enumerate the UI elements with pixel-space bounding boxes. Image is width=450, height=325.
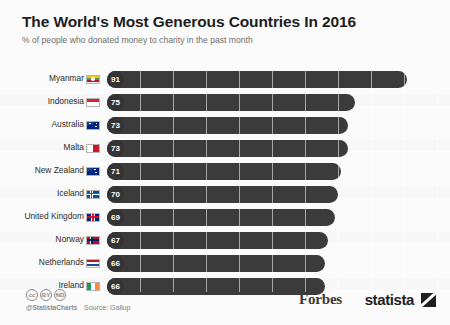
gridline: [140, 60, 141, 292]
statista-chart: The World's Most Generous Countries In 2…: [0, 0, 450, 325]
value-label: 75: [107, 94, 124, 111]
chart-header: The World's Most Generous Countries In 2…: [22, 12, 432, 46]
value-bar: [107, 117, 348, 134]
country-label: Indonesia: [0, 96, 84, 106]
chart-row: Indonesia75: [0, 91, 450, 114]
flag-malta-icon: [86, 144, 100, 153]
country-label: United Kingdom: [0, 211, 84, 221]
value-label: 73: [107, 140, 124, 157]
gridline: [272, 60, 273, 292]
creative-commons-icons: cc BY ND: [26, 289, 66, 301]
page-title: The World's Most Generous Countries In 2…: [22, 12, 432, 31]
country-label: Australia: [0, 119, 84, 129]
flag-united-kingdom-icon: [86, 213, 100, 222]
gridline: [173, 60, 174, 292]
chart-row: Iceland70: [0, 183, 450, 206]
chart-plot-area: Myanmar91Indonesia75Australia73Malta73Ne…: [0, 60, 450, 292]
gridline: [206, 60, 207, 292]
gridline: [305, 60, 306, 292]
chart-row: Myanmar91: [0, 68, 450, 91]
chart-row: Netherlands66: [0, 252, 450, 275]
flag-netherlands-icon: [86, 259, 100, 268]
country-label: Norway: [0, 234, 84, 244]
cc-icon: cc: [26, 289, 38, 301]
chart-row: Malta73: [0, 137, 450, 160]
forbes-logo: Forbes: [299, 291, 342, 308]
value-label: 73: [107, 117, 124, 134]
country-label: New Zealand: [0, 165, 84, 175]
value-bar: [107, 209, 335, 226]
statista-handle: @StatistaCharts: [26, 304, 77, 311]
value-bar: [107, 163, 341, 180]
chart-row: Australia73: [0, 114, 450, 137]
country-label: Malta: [0, 142, 84, 152]
flag-norway-icon: [86, 236, 100, 245]
value-label: 70: [107, 186, 124, 203]
value-label: 69: [107, 209, 124, 226]
value-label: 67: [107, 232, 124, 249]
source-label: Source: Gallup: [84, 304, 130, 311]
statista-arrow-icon: [421, 293, 436, 307]
value-label: 71: [107, 163, 124, 180]
chart-row: United Kingdom69: [0, 206, 450, 229]
gridline: [338, 60, 339, 292]
country-label: Netherlands: [0, 257, 84, 267]
chart-row: New Zealand71: [0, 160, 450, 183]
cc-nd-icon: ND: [54, 289, 66, 301]
flag-new-zealand-icon: [86, 167, 100, 176]
flag-iceland-icon: [86, 190, 100, 199]
value-label: 66: [107, 255, 124, 272]
value-label: 66: [107, 278, 124, 295]
value-bar: [107, 186, 338, 203]
chart-subtitle: % of people who donated money to charity…: [22, 35, 432, 46]
chart-footer: cc BY ND @StatistaCharts Source: Gallup …: [0, 286, 450, 325]
gridline: [239, 60, 240, 292]
flag-myanmar-icon: [86, 75, 100, 84]
statista-logo: statista: [365, 291, 414, 308]
value-bar: [107, 94, 355, 111]
value-bar: [107, 71, 407, 88]
value-label: 91: [107, 71, 124, 88]
gridline: [371, 60, 372, 292]
chart-row: Norway67: [0, 229, 450, 252]
flag-australia-icon: [86, 121, 100, 130]
country-label: Iceland: [0, 188, 84, 198]
cc-by-icon: BY: [40, 289, 52, 301]
flag-indonesia-icon: [86, 98, 100, 107]
value-bar: [107, 140, 348, 157]
gridline: [437, 60, 438, 292]
gridline: [404, 60, 405, 292]
country-label: Myanmar: [0, 73, 84, 83]
